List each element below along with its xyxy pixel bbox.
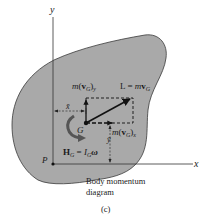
angular-momentum-omega: ω — [91, 147, 98, 157]
y-bar-label: ȳ — [107, 136, 111, 144]
origin-label: P — [42, 156, 48, 165]
x-axis-label: x — [194, 159, 198, 169]
caption-line-1: Body momentum — [86, 177, 145, 186]
caption-line-2: diagram — [86, 188, 114, 197]
momentum-y-comp: y — [93, 86, 96, 92]
momentum-x-comp: x — [133, 132, 136, 138]
linear-momentum-sub: G — [146, 86, 150, 92]
rigid-body-shape — [12, 35, 166, 184]
linear-momentum-label: L = mvG — [120, 82, 150, 92]
angular-momentum-label: HG = IGω — [63, 148, 98, 158]
x-bar-label: x̄ — [66, 103, 70, 111]
momentum-y-label: m(vG)y — [72, 82, 96, 92]
center-of-mass-label: G — [77, 126, 84, 135]
momentum-x-label: m(vG)x — [112, 128, 136, 138]
figure-label: (c) — [101, 205, 110, 214]
linear-momentum-l: L — [120, 81, 125, 91]
origin-point-p — [51, 162, 54, 165]
angular-momentum-h: H — [63, 147, 70, 157]
y-axis-label: y — [50, 5, 54, 15]
angular-momentum-h-sub: G — [70, 152, 74, 158]
center-of-mass-point — [84, 121, 88, 125]
angular-momentum-eq: = — [77, 147, 82, 157]
linear-momentum-eq: = — [127, 81, 132, 91]
